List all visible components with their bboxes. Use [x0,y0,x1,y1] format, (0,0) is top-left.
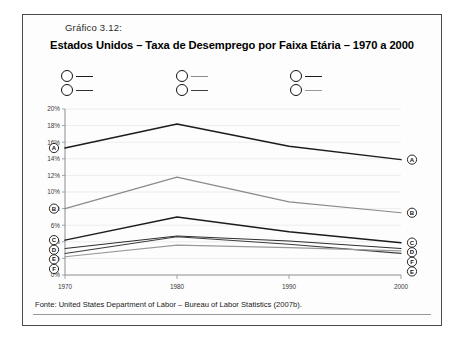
figure-frame: Gráfico 3.12: Estados Unidos – Taxa de D… [22,14,442,326]
y-tick-label: 10% [47,188,60,195]
endpoint-marker-a: A [407,155,416,164]
legend-item-c [290,70,405,82]
y-tick-label: 12% [47,172,60,179]
legend-line-swatch [305,76,322,77]
endpoint-marker-d: D [49,245,58,254]
legend-item-b [176,70,291,82]
y-tick-label: 14% [47,155,60,162]
legend-line-swatch [305,90,322,91]
x-tick-label: 1990 [282,283,297,290]
marker-label: E [52,256,56,262]
endpoint-marker-f: F [407,257,416,266]
x-tick-label: 2000 [394,283,409,290]
legend-key-icon [61,84,73,96]
marker-label: D [52,247,57,253]
legend-key-icon [290,70,302,82]
legend-line-swatch [76,76,93,77]
marker-label: F [410,259,414,265]
marker-label: B [410,210,415,216]
endpoint-marker-f: F [49,264,58,273]
legend-item-d [61,84,176,96]
legend-item-e [176,84,291,96]
y-tick-label: 20% [47,105,60,112]
chart-title: Estados Unidos – Taxa de Desemprego por … [23,39,441,51]
legend-line-swatch [191,76,208,77]
legend-key-icon [176,70,188,82]
marker-label: D [410,249,415,255]
marker-label: A [52,145,57,151]
legend-item-a [61,70,176,82]
marker-label: F [52,266,56,272]
series-line-a [65,124,401,160]
endpoint-marker-b: B [49,204,58,213]
chart-legend [61,69,405,97]
marker-label: A [410,157,415,163]
series-line-f [65,245,401,257]
marker-label: B [52,206,57,212]
chart-plot-area: 0%2%4%6%8%10%12%14%16%18%20%197019801990… [31,103,435,299]
series-line-b [65,177,401,213]
endpoint-marker-c: C [49,236,58,245]
source-divider [33,314,431,315]
legend-line-swatch [76,90,93,91]
y-tick-label: 6% [51,222,61,229]
marker-label: C [52,237,57,243]
legend-key-icon [290,84,302,96]
legend-key-icon [61,70,73,82]
endpoint-marker-c: C [407,238,416,247]
marker-label: E [410,269,414,275]
endpoint-marker-e: E [49,255,58,264]
source-note: Fonte: United States Department of Labor… [35,300,302,309]
endpoint-marker-e: E [407,267,416,276]
endpoint-marker-b: B [407,208,416,217]
endpoint-marker-a: A [49,143,58,152]
x-tick-label: 1980 [170,283,185,290]
marker-label: C [410,240,415,246]
endpoint-marker-d: D [407,248,416,257]
x-tick-label: 1970 [58,283,73,290]
figure-caption-tag: Gráfico 3.12: [59,22,128,33]
line-chart-svg: 0%2%4%6%8%10%12%14%16%18%20%197019801990… [31,103,435,299]
legend-item-f [290,84,405,96]
y-tick-label: 18% [47,122,60,129]
legend-key-icon [176,84,188,96]
legend-line-swatch [191,90,208,91]
